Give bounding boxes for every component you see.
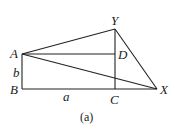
label-point-c: C bbox=[110, 92, 119, 107]
label-point-y: Y bbox=[111, 13, 120, 28]
label-point-d: D bbox=[117, 47, 128, 62]
segment-ay bbox=[22, 29, 115, 54]
label-point-b: B bbox=[10, 82, 18, 97]
geometry-diagram: Y A D B C X b a (a) bbox=[0, 0, 178, 130]
label-point-a: A bbox=[9, 46, 18, 61]
label-point-x: X bbox=[159, 82, 169, 97]
label-side-b: b bbox=[13, 65, 20, 80]
label-side-a: a bbox=[63, 89, 70, 104]
figure-caption: (a) bbox=[80, 110, 93, 124]
